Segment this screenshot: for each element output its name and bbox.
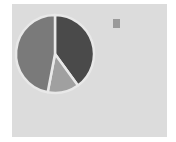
legend-marker-icon (113, 19, 120, 28)
pie-chart (0, 0, 176, 142)
pie-slice-3 (16, 15, 55, 92)
